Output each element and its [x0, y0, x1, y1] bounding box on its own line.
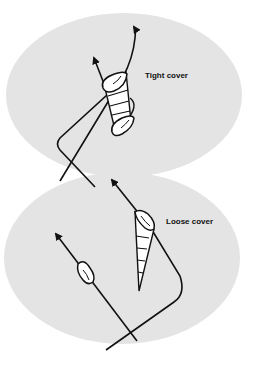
loose-cover-zone	[4, 172, 240, 344]
sailing-cover-diagram: Tight cover Loose cover	[0, 0, 260, 378]
tight-cover-label: Tight cover	[145, 71, 188, 80]
loose-cover-label: Loose cover	[166, 217, 213, 226]
